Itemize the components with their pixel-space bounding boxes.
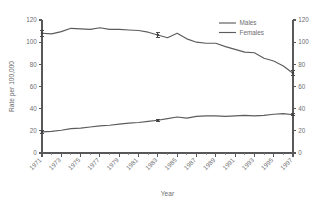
data-point-marker: [292, 114, 294, 116]
y-tick-label-right: 100: [298, 38, 309, 45]
x-tick-label: 1997: [279, 156, 294, 171]
y-tick-label-left: 60: [30, 83, 38, 90]
y-tick-label-left: 120: [26, 16, 37, 23]
x-tick-label: 1991: [221, 156, 236, 171]
legend-label-males: Males: [240, 19, 257, 26]
x-tick-label: 1993: [240, 156, 255, 171]
legend-label-females: Females: [240, 29, 265, 36]
x-tick-label: 1979: [105, 156, 120, 171]
x-tick-label: 1989: [202, 156, 217, 171]
y-tick-label-right: 80: [298, 61, 306, 68]
data-point-marker: [41, 131, 43, 133]
chart-container: 0204060801001200204060801001201971197319…: [0, 0, 324, 209]
x-tick-label: 1973: [47, 156, 62, 171]
y-tick-label-right: 0: [298, 149, 302, 156]
data-point-marker: [41, 32, 43, 34]
y-tick-label-right: 60: [298, 83, 306, 90]
y-tick-label-right: 120: [298, 16, 309, 23]
series-line-females: [42, 114, 293, 132]
x-tick-label: 1987: [182, 156, 197, 171]
x-tick-label: 1975: [66, 156, 81, 171]
y-tick-label-left: 0: [33, 149, 37, 156]
y-tick-label-left: 100: [26, 38, 37, 45]
y-tick-label-left: 20: [30, 127, 38, 134]
y-axis-title: Rate per 100,000: [8, 61, 16, 112]
data-point-marker: [292, 72, 294, 74]
x-tick-label: 1995: [260, 156, 275, 171]
x-axis-title: Year: [161, 190, 175, 197]
x-tick-label: 1983: [144, 156, 159, 171]
y-tick-label-left: 80: [30, 61, 38, 68]
x-tick-label: 1977: [86, 156, 101, 171]
line-chart: 0204060801001200204060801001201971197319…: [0, 0, 324, 209]
data-point-marker: [157, 34, 159, 36]
y-tick-label-right: 40: [298, 105, 306, 112]
y-tick-label-left: 40: [30, 105, 38, 112]
x-tick-label: 1971: [28, 156, 43, 171]
x-tick-label: 1981: [124, 156, 139, 171]
y-tick-label-right: 20: [298, 127, 306, 134]
chart-title-faint: [88, 0, 238, 7]
x-tick-label: 1985: [163, 156, 178, 171]
data-point-marker: [157, 119, 159, 121]
